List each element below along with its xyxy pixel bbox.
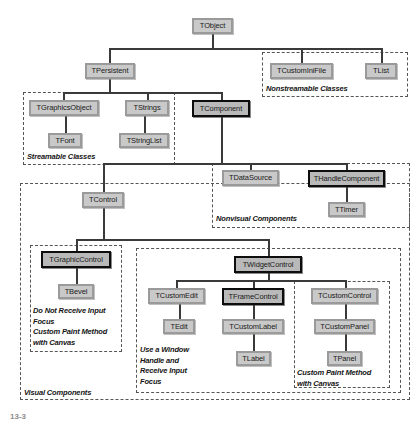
class-node-tlabel[interactable]: TLabel bbox=[236, 351, 271, 366]
connector-e-tcustomedit-drop bbox=[176, 280, 178, 288]
class-node-tedit[interactable]: TEdit bbox=[163, 319, 195, 334]
connector-e-tdatasource-drop bbox=[250, 163, 252, 170]
class-node-tbevel[interactable]: TBevel bbox=[58, 284, 94, 299]
connector-e-tfont bbox=[65, 116, 67, 133]
connector-e-tstrings-drop bbox=[147, 92, 149, 100]
class-node-tstringlist[interactable]: TStringList bbox=[119, 133, 169, 148]
class-hierarchy-diagram: TObjectTPersistentTCustomIniFileTListTGr… bbox=[0, 0, 418, 423]
connector-e-twidget-drop bbox=[268, 239, 270, 256]
connector-e-tpersistent-drop bbox=[109, 48, 111, 63]
connector-e-tcustomlabel bbox=[253, 305, 255, 319]
class-node-tstrings[interactable]: TStrings bbox=[125, 100, 169, 116]
connector-e-tlist-drop bbox=[381, 48, 383, 63]
connector-e-tcomponent-drop bbox=[221, 92, 223, 100]
connector-e-tcomp-stem bbox=[221, 117, 223, 163]
class-node-tobject[interactable]: TObject bbox=[192, 18, 233, 34]
connector-e-control-bus bbox=[76, 239, 268, 241]
connector-e-widget-bus bbox=[176, 280, 345, 282]
connector-e-tobject-bus bbox=[109, 48, 381, 50]
connector-e-twidget-stem bbox=[268, 273, 270, 280]
connector-e-tedit bbox=[179, 304, 181, 319]
connector-e-tgraphicsobj-drop bbox=[63, 92, 65, 100]
class-node-tcontrol[interactable]: TControl bbox=[82, 192, 124, 208]
class-node-tpanel[interactable]: TPanel bbox=[327, 351, 362, 366]
class-node-twidgetcontrol[interactable]: TWidgetControl bbox=[234, 256, 302, 273]
cap-nonvisual: Nonvisual Components bbox=[216, 214, 297, 225]
connector-e-tlabel bbox=[253, 334, 255, 351]
class-node-tgraphiccontrol[interactable]: TGraphicControl bbox=[41, 251, 111, 268]
class-node-tcustompanel[interactable]: TCustomPanel bbox=[314, 319, 375, 334]
class-node-tgraphicsobject[interactable]: TGraphicsObject bbox=[29, 100, 99, 116]
class-node-ttimer[interactable]: TTimer bbox=[328, 202, 365, 217]
connector-e-tframectl-drop bbox=[253, 280, 255, 288]
connector-e-tobject-stem bbox=[212, 34, 214, 48]
cap-visual: Visual Components bbox=[24, 388, 91, 399]
connector-e-tcustompanel bbox=[345, 304, 347, 319]
connector-e-persist-bus bbox=[63, 92, 222, 94]
connector-e-comp-left-down bbox=[103, 163, 105, 172]
class-node-tcustomedit[interactable]: TCustomEdit bbox=[148, 288, 205, 304]
class-node-tpersistent[interactable]: TPersistent bbox=[85, 63, 135, 79]
connector-e-tpanel bbox=[345, 334, 347, 351]
class-node-tframecontrol[interactable]: TFrameControl bbox=[222, 288, 284, 305]
cap-customcontrol: Custom Paint Method with Canvas bbox=[297, 368, 371, 389]
class-node-tlist[interactable]: TList bbox=[365, 63, 397, 79]
connector-e-tpersistent-stem bbox=[109, 79, 111, 92]
cap-graphic: Do Not Receive Input Focus Custom Paint … bbox=[33, 306, 107, 348]
connector-e-tcustominifile-dr bbox=[301, 48, 303, 63]
connector-e-comp-bus bbox=[103, 163, 347, 165]
cap-streamable: Streamable Classes bbox=[27, 152, 95, 163]
class-node-tcomponent[interactable]: TComponent bbox=[192, 100, 250, 117]
connector-e-tgraphic-drop bbox=[76, 239, 78, 251]
connector-e-tstringlist bbox=[144, 116, 146, 133]
class-node-tcustomlabel[interactable]: TCustomLabel bbox=[222, 319, 284, 334]
class-node-tcustominifile[interactable]: TCustomIniFile bbox=[270, 63, 333, 79]
connector-e-ttimer bbox=[346, 187, 348, 202]
figure-number: 13-3 bbox=[10, 412, 26, 421]
connector-e-tcustomctl-drop bbox=[345, 280, 347, 288]
connector-e-tcontrol-drop bbox=[103, 172, 105, 193]
connector-e-tbevel bbox=[76, 268, 78, 284]
class-node-tfont[interactable]: TFont bbox=[48, 133, 82, 148]
class-node-tdatasource[interactable]: TDataSource bbox=[222, 170, 279, 186]
cap-nonstreamable: Nonstreamable Classes bbox=[266, 84, 347, 95]
connector-e-tcontrol-stem bbox=[103, 208, 105, 239]
class-node-tcustomcontrol[interactable]: TCustomControl bbox=[311, 288, 378, 304]
connector-e-thandle-drop bbox=[346, 163, 348, 170]
class-node-thandlecomponent[interactable]: THandleComponent bbox=[308, 170, 385, 187]
cap-widget: Use a Window Handle and Receive Input Fo… bbox=[140, 345, 189, 387]
